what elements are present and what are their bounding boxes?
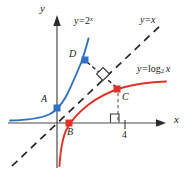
exponential-curve <box>10 39 89 121</box>
x-axis-arrowhead <box>156 119 166 126</box>
point-C-label: C <box>122 92 129 102</box>
x-tick-label-4: 4 <box>122 131 127 141</box>
point-D-label: D <box>69 49 76 59</box>
point-A-marker <box>54 105 61 112</box>
point-B-label: B <box>67 127 73 137</box>
y-axis-arrowhead <box>53 15 60 26</box>
log-label-func: log <box>148 63 161 74</box>
x-axis-label: x <box>174 114 179 125</box>
y-axis-label: y <box>40 3 45 14</box>
math-figure: y x 4 y=2x y=x y=log2x A B C D <box>0 0 193 170</box>
point-D-marker <box>82 57 89 64</box>
identity-label-x: x <box>151 14 155 25</box>
exponential-label-exponent: x <box>90 15 93 22</box>
perpendicular-diamond-marker <box>97 68 110 81</box>
exponential-curve-label: y=2x <box>74 16 93 26</box>
point-C-marker <box>114 86 121 93</box>
axes-group <box>8 15 166 168</box>
identity-line-label: y=x <box>140 15 156 25</box>
point-A-label: A <box>41 94 47 104</box>
logarithmic-curve <box>60 82 167 167</box>
logarithmic-curve-label: y=log2x <box>137 64 170 75</box>
figure-canvas <box>0 0 193 170</box>
log-label-arg: x <box>164 63 170 74</box>
